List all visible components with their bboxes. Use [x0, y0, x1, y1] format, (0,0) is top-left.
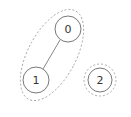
- node-0: 0: [55, 16, 81, 42]
- edge-0-1: [43, 40, 60, 69]
- node-1-label: 1: [33, 74, 40, 87]
- graph-diagram: 0 1 2: [0, 0, 131, 117]
- node-1: 1: [23, 67, 49, 93]
- node-2-label: 2: [97, 74, 104, 87]
- node-2: 2: [88, 68, 112, 92]
- component-0-1-outline: [7, 0, 96, 110]
- node-0-label: 0: [65, 23, 72, 36]
